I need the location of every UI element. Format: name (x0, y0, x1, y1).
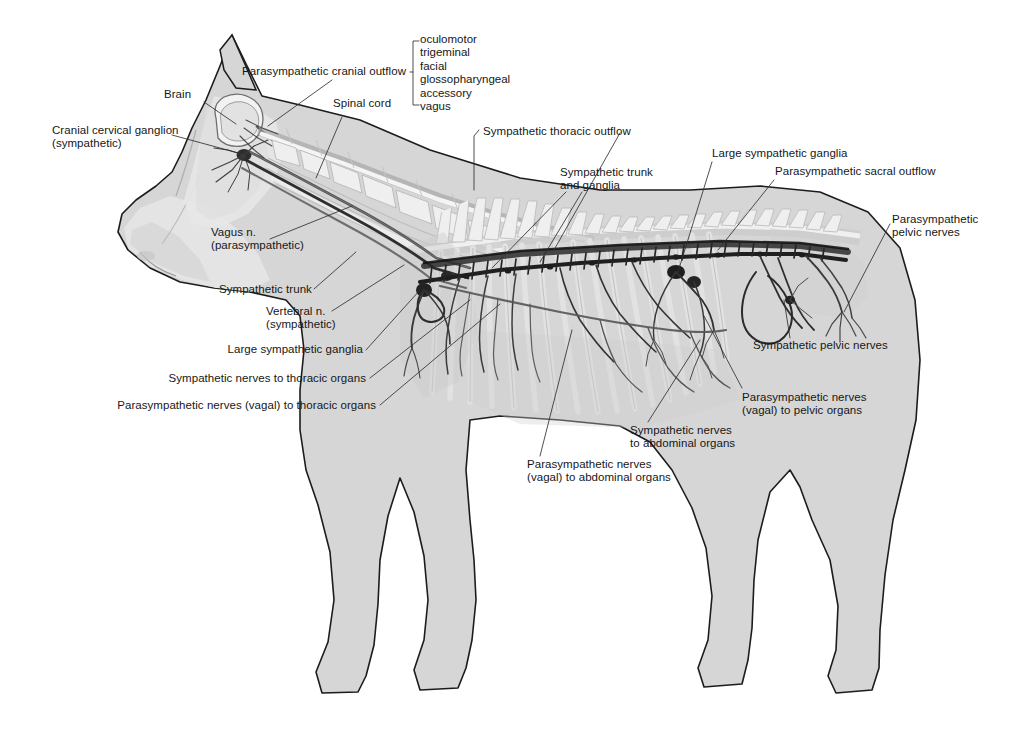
anatomical-figure: oculomotor trigeminal facial glossophary… (0, 0, 1021, 737)
label-parasympathetic-sacral-outflow: Parasympathetic sacral outflow (775, 165, 936, 178)
label-cranial-cervical-ganglion-line2: (sympathetic) (52, 137, 122, 149)
label-parasympathetic-pelvic-nerves-line2: pelvic nerves (892, 226, 960, 238)
label-sympathetic-nerves-to-abdominal-organs: Sympathetic nerves to abdominal organs (630, 424, 735, 450)
label-parasympathetic-nerves-to-abdominal-organs: Parasympathetic nerves (vagal) to abdomi… (527, 458, 671, 484)
label-sympathetic-nerves-to-abdominal-organs-line2: to abdominal organs (630, 437, 735, 449)
cranial-nerve-bracket (413, 41, 419, 105)
label-sympathetic-thoracic-outflow: Sympathetic thoracic outflow (483, 125, 631, 138)
cranial-nerve-item-glossopharyngeal: glossopharyngeal (420, 73, 510, 85)
label-parasympathetic-cranial-outflow: Parasympathetic cranial outflow (86, 65, 406, 78)
label-vagus-n-line2: (parasympathetic) (211, 239, 304, 251)
label-parasympathetic-pelvic-nerves: Parasympathetic pelvic nerves (892, 213, 978, 239)
label-parasympathetic-pelvic-nerves-line1: Parasympathetic (892, 213, 978, 225)
label-large-sympathetic-ganglia-right: Large sympathetic ganglia (712, 147, 848, 160)
label-vagus-n: Vagus n. (parasympathetic) (211, 226, 304, 252)
label-vertebral-n-line2: (sympathetic) (266, 318, 336, 330)
label-parasympathetic-nerves-to-pelvic-organs-line1: Parasympathetic nerves (742, 391, 866, 403)
label-sympathetic-trunk-and-ganglia: Sympathetic trunk and ganglia (560, 166, 653, 192)
label-sympathetic-nerves-to-abdominal-organs-line1: Sympathetic nerves (630, 424, 732, 436)
label-vagus-n-line1: Vagus n. (211, 226, 256, 238)
label-vertebral-n-line1: Vertebral n. (266, 305, 325, 317)
cranial-nerve-item-facial: facial (420, 60, 447, 72)
cranial-nerve-item-accessory: accessory (420, 87, 472, 99)
cranial-nerve-item-vagus: vagus (420, 100, 451, 112)
label-parasympathetic-nerves-to-pelvic-organs-line2: (vagal) to pelvic organs (742, 404, 862, 416)
label-cranial-cervical-ganglion-line1: Cranial cervical ganglion (52, 124, 179, 136)
cranial-nerve-list: oculomotor trigeminal facial glossophary… (420, 33, 510, 113)
label-cranial-cervical-ganglion: Cranial cervical ganglion (sympathetic) (52, 124, 179, 150)
label-sympathetic-trunk-and-ganglia-line2: and ganglia (560, 179, 620, 191)
label-spinal-cord: Spinal cord (333, 97, 391, 110)
label-parasympathetic-nerves-to-abdominal-organs-line1: Parasympathetic nerves (527, 458, 651, 470)
label-sympathetic-nerves-to-thoracic-organs: Sympathetic nerves to thoracic organs (38, 372, 366, 385)
label-parasympathetic-nerves-to-thoracic-organs: Parasympathetic nerves (vagal) to thorac… (28, 399, 376, 412)
label-sympathetic-trunk-and-ganglia-line1: Sympathetic trunk (560, 166, 653, 178)
label-brain: Brain (164, 88, 191, 101)
label-sympathetic-trunk: Sympathetic trunk (219, 283, 312, 296)
label-parasympathetic-nerves-to-pelvic-organs: Parasympathetic nerves (vagal) to pelvic… (742, 391, 866, 417)
label-large-sympathetic-ganglia-left: Large sympathetic ganglia (38, 343, 363, 356)
cranial-nerve-item-oculomotor: oculomotor (420, 33, 477, 45)
horse-autonomic-nervous-system-illustration (0, 0, 1021, 737)
cranial-nerve-item-trigeminal: trigeminal (420, 46, 470, 58)
label-vertebral-n: Vertebral n. (sympathetic) (266, 305, 336, 331)
label-parasympathetic-nerves-to-abdominal-organs-line2: (vagal) to abdominal organs (527, 471, 671, 483)
label-sympathetic-pelvic-nerves: Sympathetic pelvic nerves (753, 339, 888, 352)
